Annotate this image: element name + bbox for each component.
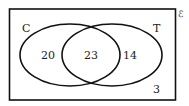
t-only-value: 14 <box>123 50 137 61</box>
set-c-label: C <box>22 23 30 34</box>
outside-value: 3 <box>153 84 160 95</box>
set-c-circle <box>20 24 120 86</box>
set-t-circle <box>62 24 162 86</box>
c-only-value: 20 <box>41 50 55 61</box>
set-t-label: T <box>153 23 160 34</box>
universal-set-symbol: ℰ <box>178 10 183 19</box>
intersection-value: 23 <box>84 50 98 61</box>
